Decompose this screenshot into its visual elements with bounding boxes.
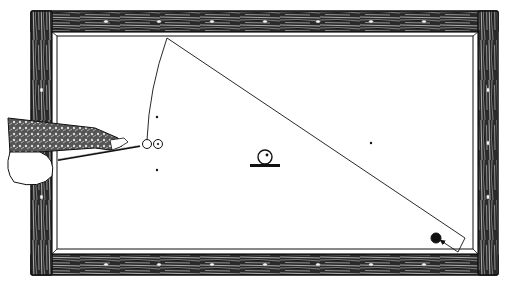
diamond-marker-icon: [40, 88, 43, 92]
center-marker-dot: [266, 154, 269, 157]
diamond-marker-icon: [210, 263, 214, 266]
object-ball-white-spot-dot: [157, 143, 159, 145]
diamond-marker-icon: [369, 263, 373, 266]
diamond-marker-icon: [104, 263, 108, 266]
spot-upper: [156, 116, 158, 118]
center-marker-ball-icon: [258, 150, 272, 164]
diamond-marker-icon: [263, 20, 267, 23]
spot-right: [370, 142, 372, 144]
diamond-marker-icon: [210, 20, 214, 23]
diamond-marker-icon: [316, 263, 320, 266]
diamond-marker-icon: [369, 20, 373, 23]
diamond-marker-icon: [486, 141, 489, 145]
table-illustration: [0, 0, 514, 287]
diamond-marker-icon: [40, 195, 43, 199]
diamond-marker-icon: [316, 20, 320, 23]
billiards-diagram: [0, 0, 514, 287]
diamond-marker-icon: [422, 20, 426, 23]
diamond-marker-icon: [263, 263, 267, 266]
diamond-marker-icon: [104, 20, 108, 23]
player-grip-hand: [8, 152, 53, 185]
diamond-marker-icon: [422, 263, 426, 266]
diamond-marker-icon: [486, 88, 489, 92]
spot-lower: [156, 169, 158, 171]
diamond-marker-icon: [157, 20, 161, 23]
cue-ball-icon: [143, 140, 152, 149]
diamond-marker-icon: [486, 195, 489, 199]
diamond-marker-icon: [157, 263, 161, 266]
red-ball-target-icon: [431, 233, 441, 243]
